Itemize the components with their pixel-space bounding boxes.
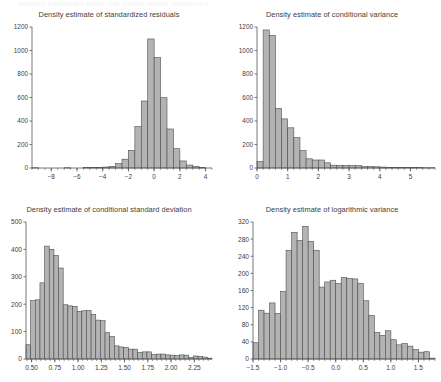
histogram-bar bbox=[154, 58, 160, 168]
histogram-bar bbox=[40, 283, 45, 359]
x-tick-label: −8 bbox=[48, 173, 56, 180]
histogram-bar bbox=[31, 301, 36, 359]
panel-standardized-residuals: Density estimate of standardized residua… bbox=[0, 10, 218, 195]
y-tick-label: 400 bbox=[17, 117, 28, 124]
histogram-bar bbox=[314, 250, 320, 359]
histogram-bar bbox=[148, 39, 154, 168]
histogram-bar bbox=[166, 355, 171, 359]
x-tick-label: 0.0 bbox=[331, 364, 340, 371]
histogram-bar bbox=[128, 349, 133, 359]
y-tick-label: 800 bbox=[17, 70, 28, 77]
histogram-bar bbox=[407, 346, 413, 359]
histogram-bar bbox=[133, 349, 138, 359]
y-tick-label: 1000 bbox=[14, 47, 29, 54]
histogram-bar bbox=[396, 345, 402, 359]
x-tick-label: 0.5 bbox=[359, 364, 368, 371]
histogram-bar bbox=[308, 241, 314, 359]
histogram-bar bbox=[297, 240, 303, 359]
x-tick-label: 2 bbox=[178, 173, 182, 180]
histogram-bar bbox=[275, 314, 281, 359]
histogram-bar bbox=[68, 306, 73, 359]
histogram-bar bbox=[424, 352, 430, 359]
x-tick-label: 4 bbox=[378, 173, 382, 180]
x-tick-label: 0 bbox=[152, 173, 156, 180]
histogram-bar bbox=[288, 128, 294, 168]
histogram-bar bbox=[128, 150, 134, 168]
histogram-bar bbox=[363, 301, 369, 359]
histogram-bar bbox=[286, 250, 292, 359]
histogram-bar bbox=[100, 321, 105, 359]
histogram-bar bbox=[82, 311, 87, 359]
histogram-bar bbox=[325, 282, 331, 359]
histogram-bar bbox=[374, 332, 380, 359]
y-tick-label: 600 bbox=[17, 94, 28, 101]
histogram-bar bbox=[193, 356, 198, 359]
histogram-bar bbox=[369, 315, 375, 359]
histogram-bar bbox=[418, 352, 424, 359]
histogram-bar bbox=[391, 340, 397, 359]
x-tick-label: −2 bbox=[125, 173, 133, 180]
histogram-bar bbox=[325, 163, 331, 168]
histogram-bar bbox=[269, 35, 275, 168]
y-tick-label: 1200 bbox=[14, 23, 29, 30]
x-tick-label: 1.0 bbox=[386, 364, 395, 371]
x-tick-label: 1.50 bbox=[118, 364, 131, 371]
panel-conditional-variance: Density estimate of conditional variance… bbox=[223, 10, 441, 195]
histogram-bar bbox=[91, 315, 96, 359]
histogram-bar bbox=[73, 306, 78, 359]
y-tick-label: 400 bbox=[11, 246, 22, 253]
x-tick-label: −4 bbox=[99, 173, 107, 180]
histogram-bar bbox=[63, 305, 68, 359]
histogram-bar bbox=[281, 291, 287, 359]
y-tick-label: 240 bbox=[238, 253, 249, 260]
x-tick-label: −0.5 bbox=[302, 364, 315, 371]
histogram-bar bbox=[142, 352, 147, 359]
y-tick-label: 120 bbox=[238, 304, 249, 311]
histogram-bar bbox=[352, 279, 358, 359]
x-tick-label: 3 bbox=[347, 173, 351, 180]
histogram-bar bbox=[385, 331, 391, 359]
histogram-bar bbox=[179, 355, 184, 359]
histogram-bar bbox=[170, 355, 175, 359]
y-tick-label: 0 bbox=[245, 355, 249, 362]
y-tick-label: 200 bbox=[11, 301, 22, 308]
faint-running-header: DENSITY ESTIMATES FROM THE GARCH MODEL R… bbox=[18, 1, 298, 8]
histogram-bar bbox=[292, 232, 298, 359]
histogram-logarithmic-variance: 04080120160200240280320−1.5−1.0−0.50.00.… bbox=[223, 214, 441, 381]
histogram-bar bbox=[282, 119, 288, 168]
y-tick-label: 280 bbox=[238, 236, 249, 243]
histogram-bar bbox=[253, 343, 259, 359]
histogram-bar bbox=[380, 335, 386, 359]
histogram-bar bbox=[156, 354, 161, 359]
histogram-bar bbox=[141, 101, 147, 168]
histogram-bar bbox=[49, 249, 54, 359]
histogram-bar bbox=[347, 279, 353, 359]
histogram-bar bbox=[26, 345, 31, 359]
x-tick-label: 0.50 bbox=[25, 364, 38, 371]
x-tick-label: 1.75 bbox=[141, 364, 154, 371]
histogram-bar bbox=[173, 149, 179, 168]
y-tick-label: 400 bbox=[242, 117, 253, 124]
histogram-bar bbox=[413, 350, 419, 359]
histogram-bar bbox=[105, 333, 110, 359]
histogram-bar bbox=[300, 151, 306, 168]
y-tick-label: 80 bbox=[242, 321, 250, 328]
chart-title-conditional-variance: Density estimate of conditional variance bbox=[223, 10, 441, 19]
y-tick-label: 320 bbox=[238, 218, 249, 225]
histogram-bar bbox=[259, 310, 265, 359]
histogram-bar bbox=[96, 320, 101, 359]
histogram-bar bbox=[330, 280, 336, 359]
histogram-bar bbox=[59, 268, 64, 359]
y-tick-label: 40 bbox=[242, 338, 250, 345]
histogram-bar bbox=[54, 255, 59, 359]
x-tick-label: 0 bbox=[255, 173, 259, 180]
x-tick-label: 1.5 bbox=[414, 364, 423, 371]
y-tick-label: 200 bbox=[242, 141, 253, 148]
y-tick-label: 800 bbox=[242, 70, 253, 77]
y-tick-label: 100 bbox=[11, 328, 22, 335]
plot-standardized-residuals: 020040060080010001200−8−6−4−2024 bbox=[0, 19, 218, 194]
y-tick-label: 0 bbox=[18, 355, 22, 362]
histogram-bar bbox=[77, 311, 82, 359]
x-tick-label: 5 bbox=[409, 173, 413, 180]
figure-page: DENSITY ESTIMATES FROM THE GARCH MODEL R… bbox=[0, 0, 441, 382]
